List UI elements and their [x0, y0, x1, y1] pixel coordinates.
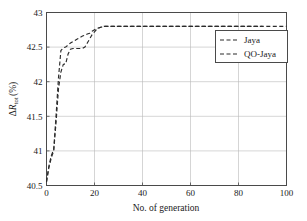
xtick-label: 20 [90, 188, 100, 198]
xtick-label: 0 [44, 188, 49, 198]
xtick-label: 80 [234, 188, 244, 198]
convergence-chart-figure: 40.54141.54242.543 020406080100 ΔRtot(%)… [0, 0, 307, 221]
y-axis-subscript: tot [12, 97, 19, 104]
ytick-label: 41 [34, 146, 43, 156]
ytick-label: 40.5 [27, 181, 43, 191]
legend-label-jaya: Jaya [244, 35, 260, 45]
xtick-label: 100 [280, 188, 294, 198]
svg-text:ΔRtot(%): ΔRtot(%) [8, 82, 19, 117]
xtick-label: 60 [186, 188, 196, 198]
ytick-label: 41.5 [27, 112, 43, 122]
ytick-label-group: 40.54141.54242.543 [27, 8, 43, 191]
xtick-label: 40 [138, 188, 148, 198]
y-axis-units: (%) [8, 82, 19, 96]
xtick-label-group: 020406080100 [44, 188, 294, 198]
y-axis-title: ΔRtot(%) [8, 82, 19, 117]
x-axis-title: No. of generation [133, 203, 200, 213]
legend-label-qo-jaya: QO-Jaya [244, 49, 276, 59]
ytick-label: 43 [34, 8, 44, 18]
ytick-label: 42.5 [27, 42, 43, 52]
chart-canvas: 40.54141.54242.543 020406080100 ΔRtot(%)… [0, 0, 307, 221]
legend: Jaya QO-Jaya [216, 31, 288, 63]
ytick-label: 42 [34, 77, 43, 87]
